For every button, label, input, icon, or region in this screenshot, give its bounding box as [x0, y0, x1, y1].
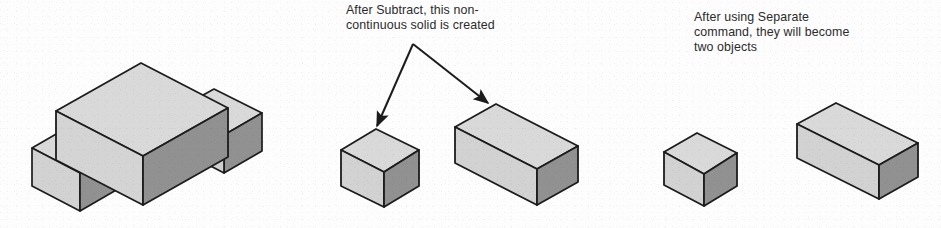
subtract-large-box: [455, 104, 578, 205]
arrow-to-small-cube: [377, 44, 413, 126]
annotation-subtract: After Subtract, this non- continuous sol…: [346, 3, 495, 33]
separate-small-cube: [664, 133, 737, 206]
callout-arrows: [377, 44, 488, 126]
arrow-to-large-box: [413, 44, 488, 103]
figure-canvas: After Subtract, this non- continuous sol…: [0, 0, 941, 228]
annotation-separate: After using Separate command, they will …: [694, 10, 849, 56]
subtract-small-cube: [341, 129, 419, 207]
cross-solid-composite: [0, 40, 280, 228]
separate-large-box: [797, 103, 918, 199]
